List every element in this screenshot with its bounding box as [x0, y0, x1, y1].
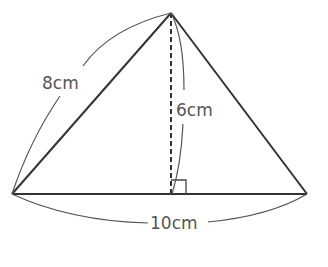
height-label: 6cm	[176, 100, 213, 120]
base-arc-left	[12, 194, 148, 223]
left-side	[12, 13, 171, 194]
base-arc-right	[208, 194, 307, 222]
triangle-diagram: 8cm 6cm 10cm	[0, 0, 328, 267]
height-arc-upper	[171, 13, 184, 90]
height-arc-lower	[172, 124, 183, 194]
left-side-arc-upper	[83, 13, 171, 66]
left-side-label: 8cm	[42, 73, 79, 93]
triangle	[12, 13, 307, 194]
base-label: 10cm	[150, 213, 198, 233]
left-side-arc-lower	[12, 96, 60, 194]
